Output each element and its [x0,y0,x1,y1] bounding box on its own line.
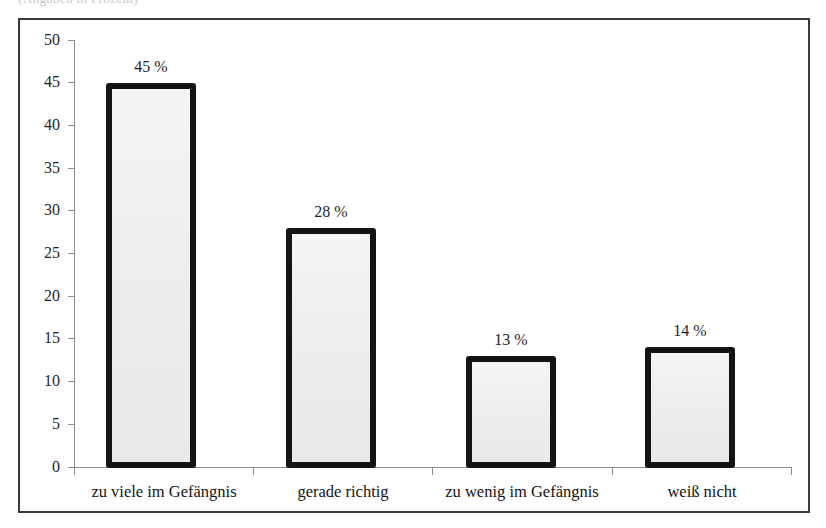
x-axis-tick [432,467,433,475]
bar-zu-viele-im-gefaengnis[interactable] [106,83,196,468]
y-axis-label: 10 [20,373,60,389]
bar-value-label: 13 % [466,331,556,348]
y-axis-tick [68,210,75,211]
y-axis-tick [68,253,75,254]
x-axis-tick [253,467,254,475]
y-axis-tick [68,338,75,339]
y-axis-tick [68,296,75,297]
y-axis-label: 30 [20,202,60,218]
y-axis-label: 25 [20,245,60,261]
bar-value-label: 28 % [286,203,376,220]
y-axis-tick [68,40,75,41]
x-axis-category-label: zu wenig im Gefängnis [432,482,612,501]
bar-gerade-richtig[interactable] [286,228,376,468]
y-axis-tick [68,125,75,126]
y-axis-label: 35 [20,160,60,176]
y-axis-label: 20 [20,288,60,304]
y-axis-tick [68,381,75,382]
x-axis-category-label: gerade richtig [253,482,433,501]
chart-frame: 50 45 40 35 30 25 20 15 10 5 0 45 [18,18,810,513]
y-axis-label: 50 [20,32,60,48]
y-axis-tick [68,82,75,83]
y-axis-label: 15 [20,330,60,346]
clipped-caption-text: (Angaben in Prozent) [18,0,618,7]
y-axis-tick [68,168,75,169]
y-axis-label: 40 [20,117,60,133]
y-axis-label: 45 [20,74,60,90]
bar-value-label: 14 % [645,322,735,339]
x-axis-tick [791,467,792,475]
y-axis-tick [68,424,75,425]
x-axis-category-label: zu viele im Gefängnis [74,482,254,501]
bar-weiss-nicht[interactable] [645,347,735,468]
x-axis-category-label: weiß nicht [612,482,792,501]
bar-value-label: 45 % [106,58,196,75]
y-axis-label: 0 [20,459,60,475]
bar-zu-wenig-im-gefaengnis[interactable] [466,356,556,468]
y-axis-label: 5 [20,416,60,432]
x-axis-tick [74,467,75,475]
y-axis-line [74,40,75,468]
plot-area: 50 45 40 35 30 25 20 15 10 5 0 45 [20,20,812,515]
x-axis-tick [612,467,613,475]
